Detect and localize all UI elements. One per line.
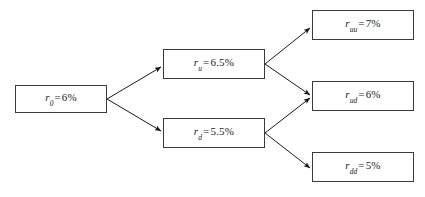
edge-rd-to-rud xyxy=(265,98,310,133)
node-rd: rd=5.5% xyxy=(163,118,265,148)
node-rd-subscript: d xyxy=(198,133,202,142)
node-ru-label: ru=6.5% xyxy=(194,56,234,71)
node-rdd-label: rdd=5% xyxy=(345,159,380,174)
node-rd-label: rd=5.5% xyxy=(194,125,234,140)
edge-ru-to-ruu xyxy=(265,28,310,64)
node-rud: rud=6% xyxy=(312,81,414,111)
node-r0-label: r0=6% xyxy=(45,91,77,106)
node-r0-equals: = xyxy=(53,91,61,103)
node-ruu-equals: = xyxy=(357,17,365,29)
node-ruu: ruu=7% xyxy=(312,10,414,40)
node-ru: ru=6.5% xyxy=(163,49,265,79)
edge-ru-to-rud xyxy=(265,64,310,95)
node-r0: r0=6% xyxy=(15,85,107,113)
node-ru-value: 6.5% xyxy=(210,56,234,68)
node-r0-symbol: r xyxy=(45,91,49,103)
node-ruu-subscript: uu xyxy=(350,25,358,34)
edge-r0-to-rd xyxy=(107,99,161,131)
node-rud-equals: = xyxy=(357,88,365,100)
node-rud-value: 6% xyxy=(366,88,381,100)
node-rdd-value: 5% xyxy=(366,159,381,171)
node-ruu-value: 7% xyxy=(366,17,381,29)
node-r0-subscript: 0 xyxy=(50,99,54,108)
node-rdd: rdd=5% xyxy=(312,152,414,182)
edge-rd-to-rdd xyxy=(265,133,310,168)
node-rd-value: 5.5% xyxy=(210,125,234,137)
node-ru-subscript: u xyxy=(198,64,202,73)
binomial-rate-tree-diagram: r0=6% ru=6.5% rd=5.5% ruu=7% rud=6% rdd=… xyxy=(0,0,425,197)
edge-r0-to-ru xyxy=(107,67,161,99)
node-rdd-equals: = xyxy=(357,159,365,171)
node-r0-value: 6% xyxy=(62,91,77,103)
node-rdd-subscript: dd xyxy=(350,167,358,176)
node-ruu-label: ruu=7% xyxy=(345,17,380,32)
node-rud-label: rud=6% xyxy=(345,88,380,103)
node-rud-subscript: ud xyxy=(350,96,358,105)
